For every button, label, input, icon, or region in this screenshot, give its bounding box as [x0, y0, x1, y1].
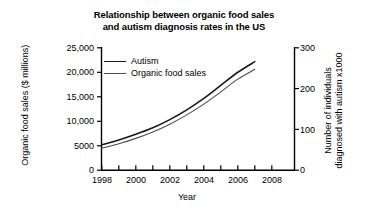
chart-legend: Autism Organic food sales — [104, 55, 206, 79]
plot-area — [0, 0, 368, 211]
legend-label-organic-food-sales: Organic food sales — [131, 68, 206, 78]
x-axis-ticks — [102, 165, 272, 170]
series-line-organic-food-sales — [102, 69, 255, 148]
legend-swatch-organic-food-sales — [104, 73, 126, 74]
legend-item-autism: Autism — [104, 55, 206, 67]
chart-figure: Relationship between organic food sales … — [0, 0, 368, 211]
legend-swatch-autism — [104, 61, 126, 62]
legend-item-organic-food-sales: Organic food sales — [104, 67, 206, 79]
legend-label-autism: Autism — [131, 56, 159, 66]
